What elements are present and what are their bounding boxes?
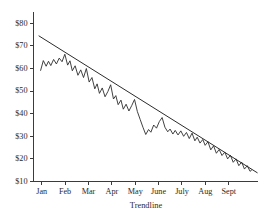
x-tick-label: Sept [221,187,236,196]
x-axis-title: Trendline [130,201,163,210]
y-tick-label: $20 [15,154,27,163]
y-tick-label: $80 [15,19,27,28]
y-tick-label: $60 [15,64,27,73]
y-tick-label: $40 [15,109,27,118]
y-tick-label: $30 [15,132,27,141]
y-tick-label: $50 [15,86,27,95]
y-tick-label: $70 [15,41,27,50]
trendline-chart: $10$20$30$40$50$60$70$80 JanFebMarAprMay… [0,0,271,218]
trendline-annotation [39,36,258,173]
x-tick-label: July [175,187,190,196]
x-tick-label: May [128,187,144,196]
y-tick-label: $10 [15,177,27,186]
price-series-line [41,54,252,171]
x-tick-label: Feb [59,187,71,196]
x-axis-tick-labels: JanFebMarAprMayJuneJulyAugSept [36,187,237,196]
x-tick-label: Mar [82,187,96,196]
y-axis-tick-labels: $10$20$30$40$50$60$70$80 [15,19,27,186]
plot-area: $10$20$30$40$50$60$70$80 JanFebMarAprMay… [15,12,258,210]
x-tick-label: Jan [36,187,47,196]
x-tick-label: Aug [198,187,212,196]
x-tick-label: June [151,187,166,196]
chart-canvas: $10$20$30$40$50$60$70$80 JanFebMarAprMay… [0,0,271,218]
x-tick-label: Apr [105,187,118,196]
